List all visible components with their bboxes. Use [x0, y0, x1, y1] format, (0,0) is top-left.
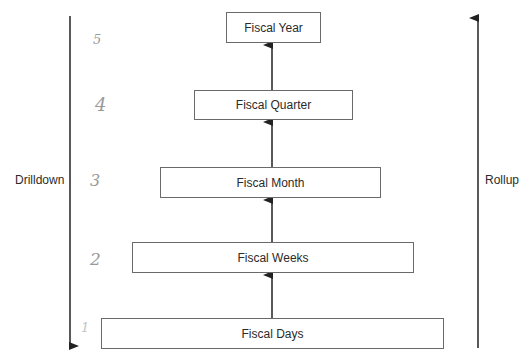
box-label: Fiscal Days: [241, 327, 303, 341]
rollup-label: Rollup: [485, 173, 519, 187]
level-number-3: 3: [90, 171, 100, 190]
box-label: Fiscal Year: [244, 21, 303, 35]
level-number-2: 2: [90, 249, 101, 269]
level-number-4: 4: [95, 94, 106, 115]
box-fiscal-year: Fiscal Year: [226, 12, 321, 43]
box-fiscal-weeks: Fiscal Weeks: [132, 242, 414, 273]
box-fiscal-month: Fiscal Month: [160, 167, 381, 198]
box-label: Fiscal Quarter: [236, 98, 311, 112]
drilldown-label: Drilldown: [15, 173, 64, 187]
level-number-5: 5: [93, 32, 101, 47]
level-number-1: 1: [81, 320, 89, 335]
box-fiscal-quarter: Fiscal Quarter: [194, 90, 353, 120]
box-label: Fiscal Weeks: [237, 251, 308, 265]
box-fiscal-days: Fiscal Days: [101, 318, 444, 349]
box-label: Fiscal Month: [236, 176, 304, 190]
